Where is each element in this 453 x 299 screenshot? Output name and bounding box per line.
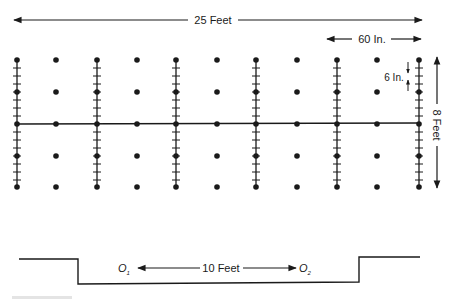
tick-spacing-label: 6 In. bbox=[384, 72, 403, 83]
point-o1-label: O1 bbox=[118, 262, 130, 276]
column-spacing-label: 60 In. bbox=[358, 33, 386, 45]
plot-layout-diagram: 25 Feet 60 In. 6 In. 8 Feet O1 10 Feet O… bbox=[0, 0, 453, 299]
point-o2-label: O2 bbox=[299, 262, 312, 276]
overall-height-label: 8 Feet bbox=[431, 109, 443, 140]
overall-height-dimension: 8 Feet bbox=[431, 57, 443, 188]
profile-span-label: 10 Feet bbox=[202, 262, 239, 274]
overall-width-dimension: 25 Feet bbox=[14, 14, 422, 26]
column-spacing-dimension: 60 In. bbox=[327, 33, 421, 45]
trench-profile: O1 10 Feet O2 bbox=[19, 257, 420, 284]
overall-width-label: 25 Feet bbox=[194, 14, 231, 26]
tick-spacing-dimension: 6 In. bbox=[384, 62, 408, 91]
